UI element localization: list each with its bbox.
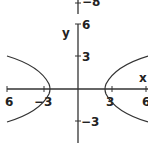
top-fragment-label: −8 [82, 0, 100, 9]
y-tick-label-3: 3 [82, 50, 90, 64]
hyperbola-plot: −8 6 3 −3 y 6 −3 3 6 x [0, 0, 148, 143]
x-tick-label-6: 6 [142, 95, 148, 109]
x-tick-label-neg6: 6 [5, 95, 13, 109]
y-tick-label-neg3: −3 [81, 115, 99, 129]
y-tick-label-6: 6 [82, 18, 90, 32]
x-axis-label: x [139, 71, 147, 85]
y-axis-label: y [62, 26, 70, 40]
